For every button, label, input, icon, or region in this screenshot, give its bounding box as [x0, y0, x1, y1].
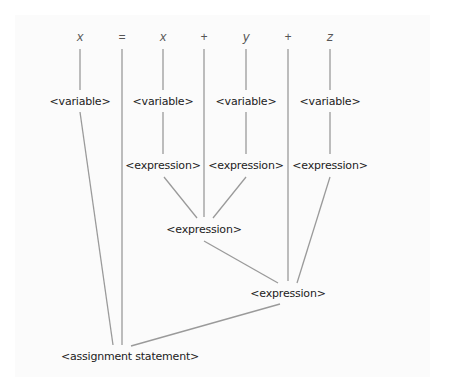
node-expression-1: <expression>	[125, 159, 200, 172]
token-plus1: +	[200, 31, 207, 45]
edge-expression3-to-expression5	[297, 177, 330, 283]
edge-expression5-to-assignment	[131, 304, 280, 346]
edge-variable1-to-assignment	[80, 112, 113, 345]
token-y: y	[242, 31, 249, 45]
token-equals: =	[118, 31, 125, 45]
node-expression-5: <expression>	[250, 287, 325, 300]
edge-expression2-to-expression4	[213, 177, 246, 218]
node-variable-2: <variable>	[133, 95, 194, 108]
node-expression-2: <expression>	[208, 159, 283, 172]
edge-expression4-to-expression5	[204, 241, 278, 283]
token-x: x	[76, 31, 83, 45]
node-expression-4: <expression>	[166, 223, 241, 236]
token-plus2: +	[284, 31, 291, 45]
edge-expression1-to-expression4	[164, 177, 197, 218]
parse-tree-edges	[0, 0, 452, 390]
token-x2: x	[159, 31, 166, 45]
node-variable-4: <variable>	[300, 95, 361, 108]
node-variable-1: <variable>	[50, 95, 111, 108]
node-expression-3: <expression>	[292, 159, 367, 172]
token-z: z	[326, 31, 333, 45]
node-variable-3: <variable>	[216, 95, 277, 108]
node-assignment-statement: <assignment statement>	[61, 350, 199, 363]
